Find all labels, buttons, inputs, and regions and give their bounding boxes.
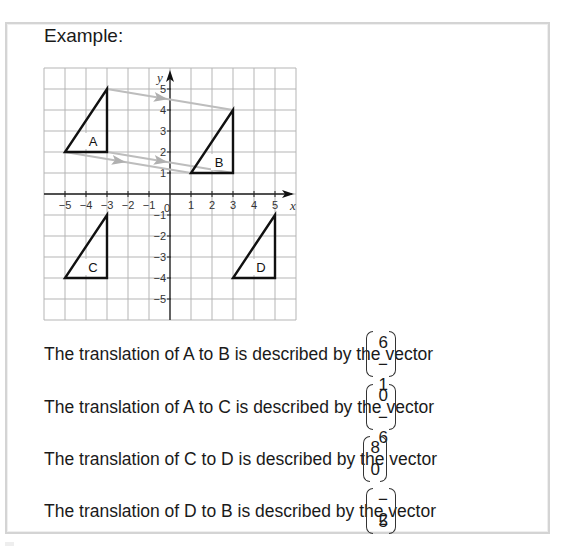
x-tick-label: 1	[188, 199, 194, 211]
triangle-label-b: B	[215, 155, 224, 170]
x-tick-label: 4	[251, 199, 257, 211]
x-tick-label: 2	[209, 199, 215, 211]
y-tick-label: −2	[153, 230, 166, 242]
right-paren	[389, 331, 396, 377]
corner-mark	[5, 542, 14, 546]
triangle-label-d: D	[256, 260, 265, 275]
x-axis-label: x	[289, 198, 296, 213]
vector-d-to-b: − 2 5	[366, 488, 396, 534]
y-tick-label: 4	[160, 104, 166, 116]
right-paren	[380, 436, 387, 482]
x-tick-label: −3	[101, 199, 114, 211]
y-tick-label: 2	[160, 146, 166, 158]
vector-c-to-d: 8 0	[363, 436, 387, 482]
x-tick-label: 5	[272, 199, 278, 211]
x-tick-label: −4	[80, 199, 93, 211]
right-paren	[389, 488, 396, 534]
x-tick-label: −5	[59, 199, 72, 211]
vector-a-to-c: 0 − 6	[366, 384, 396, 430]
y-tick-label: −3	[153, 251, 166, 263]
triangle-label-c: C	[88, 260, 97, 275]
y-tick-label: −5	[153, 293, 166, 305]
triangle-label-a: A	[89, 134, 98, 149]
x-tick-label: −2	[122, 199, 135, 211]
right-paren	[389, 384, 396, 430]
y-tick-label: 5	[160, 83, 166, 95]
y-tick-label: 3	[160, 125, 166, 137]
x-tick-label: 3	[230, 199, 236, 211]
y-tick-label: −1	[153, 209, 166, 221]
vector-a-to-b: 6 − 1	[366, 331, 396, 377]
y-tick-label: −4	[153, 272, 166, 284]
